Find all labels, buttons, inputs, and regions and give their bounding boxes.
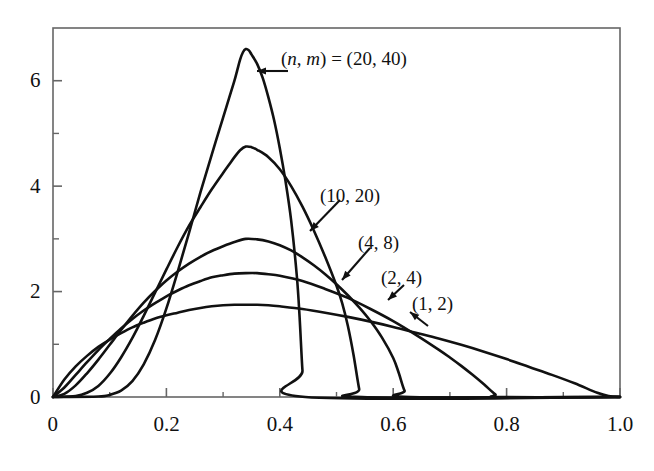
x-tick-label: 1.0 (607, 412, 633, 437)
curve-label-1-2: (1, 2) (412, 293, 453, 315)
x-tick-label: 0.4 (267, 412, 293, 437)
figure-container: 0 0.2 0.4 0.6 0.8 1.0 0 2 4 6 (n, m) = (… (0, 0, 654, 471)
beta-density-plot (0, 0, 654, 471)
y-tick-label: 6 (30, 68, 41, 93)
axis-ticks (53, 81, 620, 397)
density-curve-20-40 (53, 49, 620, 399)
curve-label-10-20: (10, 20) (320, 185, 380, 207)
x-tick-label: 0 (48, 412, 59, 437)
x-tick-label: 0.6 (380, 412, 406, 437)
x-tick-label: 0.8 (494, 412, 520, 437)
curve-label-4-8: (4, 8) (358, 232, 399, 254)
density-curve-1-2 (53, 305, 620, 397)
plot-frame (53, 28, 620, 397)
curve-group (53, 49, 620, 399)
y-tick-label: 4 (30, 174, 41, 199)
curve-label-2-4: (2, 4) (381, 267, 422, 289)
curve-label-20-40-text: (n, m) = (20, 40) (281, 48, 407, 69)
y-tick-label: 0 (30, 385, 41, 410)
x-tick-label: 0.2 (153, 412, 179, 437)
curve-label-20-40: (n, m) = (20, 40) (281, 48, 407, 70)
density-curve-2-4 (53, 273, 620, 397)
y-tick-label: 2 (30, 279, 41, 304)
